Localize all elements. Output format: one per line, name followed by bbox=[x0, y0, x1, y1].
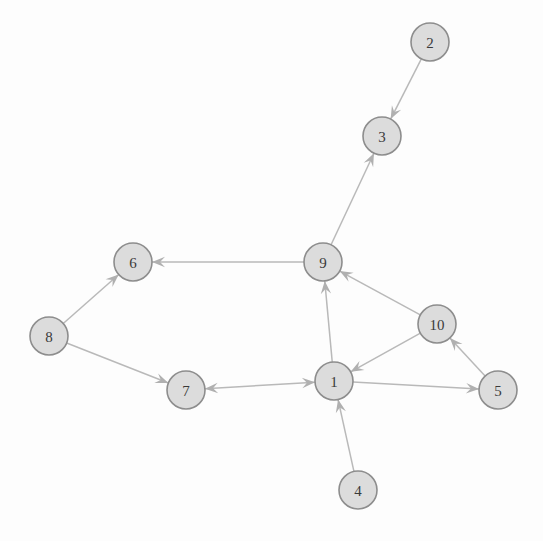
node-label-2: 2 bbox=[426, 35, 434, 51]
graph-svg: 12345678910 bbox=[0, 0, 543, 541]
node-label-6: 6 bbox=[129, 255, 137, 271]
graph-node-5[interactable]: 5 bbox=[479, 371, 517, 409]
edge-9-to-6 bbox=[152, 257, 304, 267]
graph-node-1[interactable]: 1 bbox=[315, 362, 353, 400]
edge-10-to-1 bbox=[351, 333, 421, 372]
edge-5-to-10 bbox=[450, 338, 485, 376]
node-label-5: 5 bbox=[494, 383, 502, 399]
edge-4-to-1 bbox=[336, 400, 354, 472]
edge-8-to-7 bbox=[67, 343, 169, 383]
graph-node-2[interactable]: 2 bbox=[411, 23, 449, 61]
graph-canvas: 12345678910 bbox=[0, 0, 543, 541]
graph-node-7[interactable]: 7 bbox=[167, 371, 205, 409]
node-label-9: 9 bbox=[319, 255, 327, 271]
edge-1-to-9 bbox=[321, 281, 332, 362]
graph-node-10[interactable]: 10 bbox=[418, 305, 456, 343]
arrowhead-to-1 bbox=[351, 361, 365, 372]
edge-9-to-3 bbox=[331, 153, 374, 245]
nodes-layer: 12345678910 bbox=[30, 23, 517, 509]
graph-node-4[interactable]: 4 bbox=[339, 471, 377, 509]
graph-node-6[interactable]: 6 bbox=[114, 243, 152, 281]
graph-node-8[interactable]: 8 bbox=[30, 317, 68, 355]
edge-1-to-5 bbox=[353, 382, 479, 393]
node-label-8: 8 bbox=[45, 329, 53, 345]
edge-2-to-3 bbox=[391, 59, 422, 119]
node-label-3: 3 bbox=[378, 129, 386, 145]
graph-node-3[interactable]: 3 bbox=[363, 117, 401, 155]
edge-7-to-1 bbox=[205, 378, 315, 393]
edge-10-to-9 bbox=[340, 271, 421, 315]
graph-node-9[interactable]: 9 bbox=[304, 243, 342, 281]
node-label-4: 4 bbox=[354, 483, 362, 499]
node-label-10: 10 bbox=[430, 317, 445, 333]
edge-8-to-6 bbox=[63, 275, 118, 324]
arrowhead-to-9 bbox=[340, 271, 354, 282]
node-label-7: 7 bbox=[182, 383, 190, 399]
node-label-1: 1 bbox=[330, 374, 338, 390]
